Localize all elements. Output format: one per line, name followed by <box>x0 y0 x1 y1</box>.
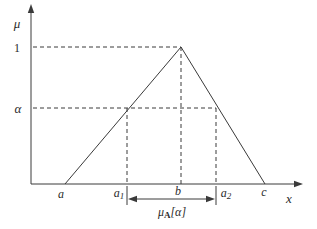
point-c-label: c <box>261 186 266 198</box>
point-a2-sub: 2 <box>227 191 232 201</box>
interval-arrow-right-icon <box>206 196 215 202</box>
interval-label: μA[α] <box>158 206 186 220</box>
x-axis-arrow-icon <box>294 181 303 187</box>
point-a-label: a <box>58 188 64 200</box>
interval-arrow-left-icon <box>128 196 137 202</box>
point-a1-label: a1 <box>114 187 125 201</box>
point-b-label: b <box>175 185 181 197</box>
fuzzy-membership-diagram: μ 1 α x a a1 b a2 c μA[α] <box>0 0 317 229</box>
point-a2-label: a2 <box>221 187 232 201</box>
membership-triangle <box>65 47 265 184</box>
interval-label-rest: [α] <box>170 205 186 219</box>
y-axis-arrow-icon <box>28 4 34 13</box>
y-axis-label: μ <box>14 17 21 30</box>
tick-one-label: 1 <box>14 42 20 54</box>
diagram-canvas <box>0 0 317 229</box>
point-a1-sub: 1 <box>120 191 125 201</box>
tick-alpha-label: α <box>15 102 22 115</box>
x-axis-label: x <box>286 192 292 205</box>
